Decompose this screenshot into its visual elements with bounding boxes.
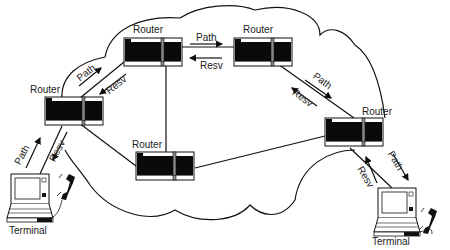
resv-label-top: Resv (200, 61, 223, 71)
phone-right-icon (419, 208, 437, 234)
path-label-terminal-left: Path (12, 150, 33, 160)
router-right (325, 118, 383, 146)
network-diagram (0, 0, 450, 250)
path-label-topr-right: Path (312, 76, 333, 86)
terminal-right-label: Terminal (372, 237, 410, 247)
link-bottom-right (195, 136, 325, 168)
terminal-left-label: Terminal (9, 226, 47, 236)
link-left-bottom (75, 120, 136, 166)
router-top-right-label: Router (243, 25, 273, 35)
path-label-top: Path (196, 33, 217, 43)
network-cloud (62, 6, 385, 220)
resv-label-terminal-right: Resv (354, 172, 377, 182)
router-top-left (124, 38, 182, 66)
router-right-label: Router (362, 107, 392, 117)
router-top-right (234, 38, 292, 66)
router-left (45, 97, 103, 125)
terminal-left-icon (7, 174, 53, 222)
router-bottom-label: Router (132, 140, 162, 150)
path-label-left-topl: Path (76, 68, 97, 78)
resv-label-terminal-left: Resv (46, 146, 69, 156)
router-bottom (136, 152, 194, 180)
resv-label-topr-right: Resv (291, 93, 314, 103)
router-top-left-label: Router (133, 25, 163, 35)
phone-left-icon (57, 174, 75, 200)
router-left-label: Router (30, 85, 60, 95)
terminal-right-icon (374, 188, 420, 236)
resv-label-left-topl: Resv (105, 80, 128, 90)
path-label-terminal-right: Path (385, 156, 406, 166)
